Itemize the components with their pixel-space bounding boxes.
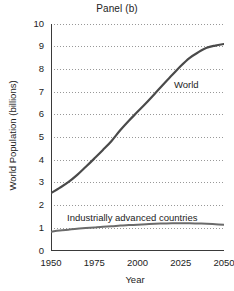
- x-tick-label: 1975: [74, 257, 114, 268]
- y-tick-label: 4: [22, 155, 44, 165]
- y-tick-label: 6: [22, 109, 44, 119]
- y-tick-label: 9: [22, 41, 44, 51]
- chart-title: Panel (b): [0, 3, 234, 14]
- y-tick-label: 5: [22, 132, 44, 142]
- y-tick-label: 7: [22, 87, 44, 97]
- y-tick-label: 0: [22, 246, 44, 256]
- gridlines: [51, 24, 224, 228]
- y-tick-label: 1: [22, 223, 44, 233]
- y-tick-label: 3: [22, 177, 44, 187]
- y-tick-label: 2: [22, 200, 44, 210]
- series-line-world: [51, 44, 224, 193]
- chart-figure: Panel (b) World Population (billions) Ye…: [0, 0, 234, 291]
- x-tick-label: 1950: [31, 257, 71, 268]
- x-axis-title: Year: [45, 274, 225, 285]
- series-label-world: World: [174, 79, 199, 90]
- y-tick-label: 10: [22, 19, 44, 29]
- x-tick-label: 2025: [161, 257, 201, 268]
- y-axis-title: World Population (billions): [7, 51, 18, 221]
- y-tick-label: 8: [22, 64, 44, 74]
- x-tick-label: 2050: [204, 257, 234, 268]
- series-label-industrially-advanced-countries: Industrially advanced countries: [67, 212, 197, 223]
- series-line-industrially-advanced-countries: [51, 223, 224, 231]
- x-tick-label: 2000: [118, 257, 158, 268]
